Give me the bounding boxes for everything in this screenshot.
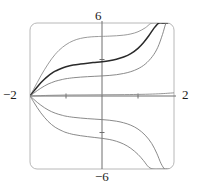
axis-label-left: −2 xyxy=(3,88,17,101)
solution-curves-chart xyxy=(0,0,200,195)
axis-label-bottom: −6 xyxy=(95,170,109,183)
axis-label-right: 2 xyxy=(182,88,189,101)
plot-figure: 6 −6 −2 2 xyxy=(0,0,200,195)
axis-label-top: 6 xyxy=(95,9,102,22)
